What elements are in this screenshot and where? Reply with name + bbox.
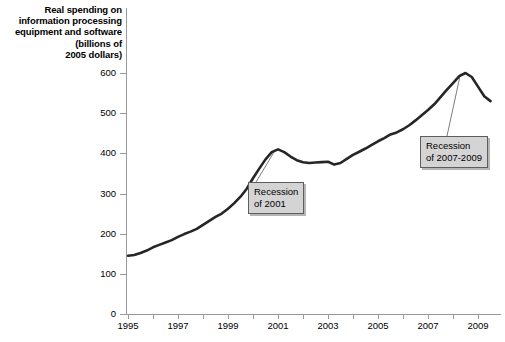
annotation-recession-2007-2009: Recession of 2007-2009 xyxy=(420,136,488,168)
annotation-2001-line-1: Recession xyxy=(254,186,298,198)
chart-container: Real spending on information processing … xyxy=(0,0,505,342)
plot-area xyxy=(0,0,505,342)
callout-leader-line-2001 xyxy=(256,152,274,182)
annotation-2001-line-2: of 2001 xyxy=(254,198,298,210)
annotation-recession-2001: Recession of 2001 xyxy=(248,182,304,214)
annotation-2007-line-1: Recession xyxy=(426,140,482,152)
annotation-2007-line-2: of 2007-2009 xyxy=(426,152,482,164)
